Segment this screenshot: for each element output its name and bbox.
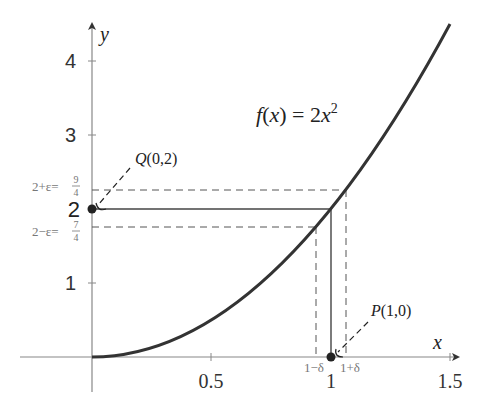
x-tick-0-5: 0.5 (199, 370, 224, 392)
y-tick-4: 4 (65, 50, 76, 72)
svg-text:9: 9 (74, 174, 79, 185)
svg-text:7: 7 (74, 219, 79, 230)
epsilon-delta-diagram: x y 0.5 1 1.5 1 2 3 4 2+ε= 9 4 2−ε= 7 4 … (0, 0, 483, 408)
epsilon-upper-label: 2+ε= 9 4 (32, 174, 80, 198)
point-p-label: P(1,0) (370, 302, 411, 320)
point-q-label: Q(0,2) (135, 150, 177, 168)
delta-left-label: 1−δ (304, 360, 324, 375)
function-label: f(x) = 2x2 (256, 101, 338, 127)
x-tick-1-5: 1.5 (438, 370, 463, 392)
epsilon-lower-label: 2−ε= 7 4 (32, 219, 80, 243)
svg-text:4: 4 (74, 187, 79, 198)
svg-text:2+ε=: 2+ε= (32, 179, 59, 194)
x-axis-label: x (432, 331, 442, 353)
y-axis-label: y (98, 23, 109, 46)
delta-right-label: 1+δ (340, 360, 360, 375)
svg-text:4: 4 (74, 232, 79, 243)
point-p (327, 353, 336, 362)
q-callout-line (98, 168, 130, 205)
p-callout-line (338, 322, 368, 352)
y-tick-3: 3 (65, 124, 76, 146)
svg-text:2−ε=: 2−ε= (32, 224, 59, 239)
x-tick-1: 1 (326, 370, 336, 392)
y-tick-1: 1 (65, 272, 76, 294)
point-q (88, 205, 97, 214)
